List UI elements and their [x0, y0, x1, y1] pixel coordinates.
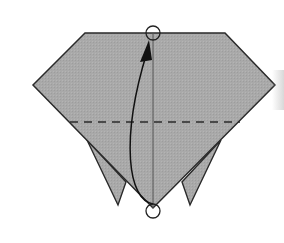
page-edge-shadow: [272, 70, 284, 110]
diagram-canvas: [0, 0, 284, 243]
origami-diagram: Origami fold step: [0, 0, 284, 243]
paper-body: [33, 33, 275, 208]
